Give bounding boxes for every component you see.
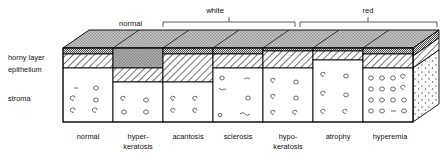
- column-sclerosis: [213, 48, 263, 122]
- layer-stroma-atrophy: [313, 60, 363, 122]
- layer-epithelium-normal: [63, 54, 113, 68]
- layer-horny-hyperemia: [363, 48, 413, 54]
- column-hyperemia: [363, 48, 413, 122]
- layer-horny-normal: [63, 48, 113, 54]
- layer-horny-acantosis: [163, 48, 213, 54]
- column-label-hyperkeratosis-2: keratosis: [123, 142, 153, 151]
- column-label-acantosis: acantosis: [172, 132, 204, 141]
- column-hypokeratosis: [263, 48, 313, 122]
- layer-epithelium-atrophy: [313, 51, 363, 60]
- layer-stroma-acantosis: [163, 82, 213, 122]
- column-label-sclerosis: sclerosis: [224, 132, 253, 141]
- tissue-layer-diagram: normal white red horny layer epithelium …: [0, 0, 441, 155]
- layer-epithelium-hyperemia: [363, 54, 413, 68]
- group-bracket-white: white: [163, 6, 295, 27]
- column-label-atrophy: atrophy: [326, 132, 351, 141]
- column-hyperkeratosis: [113, 48, 163, 122]
- group-label-normal: normal: [119, 19, 143, 28]
- layer-horny-hyperkeratosis: [113, 48, 163, 68]
- layer-stroma-hyperkeratosis: [113, 82, 163, 122]
- side-label-stroma: stroma: [8, 94, 31, 103]
- column-label-hypokeratosis-1: hypo-: [279, 132, 298, 141]
- group-label-white: white: [205, 6, 224, 15]
- layer-epithelium-acantosis: [163, 54, 213, 82]
- column-acantosis: [163, 48, 213, 122]
- group-bracket-red: red: [300, 6, 437, 27]
- side-label-horny-layer: horny layer: [8, 53, 45, 62]
- column-atrophy: [313, 48, 363, 122]
- layer-epithelium-hyperkeratosis: [113, 68, 163, 82]
- layer-epithelium-hypokeratosis: [263, 51, 313, 68]
- layer-epithelium-sclerosis: [213, 54, 263, 68]
- column-normal: [63, 48, 113, 122]
- layer-horny-sclerosis: [213, 48, 263, 54]
- group-bracket-normal: normal: [119, 19, 143, 28]
- group-label-red: red: [363, 6, 374, 15]
- column-label-normal: normal: [77, 132, 100, 141]
- layer-stroma-hypokeratosis: [263, 68, 313, 122]
- column-label-hypokeratosis-2: keratosis: [273, 142, 303, 151]
- column-label-hyperemia: hyperemia: [373, 132, 408, 141]
- block-top-face: [63, 30, 439, 48]
- side-label-epithelium: epithelium: [8, 65, 42, 74]
- diagram-svg: normal white red horny layer epithelium …: [0, 0, 441, 155]
- column-label-hyperkeratosis-1: hyper-: [128, 132, 149, 141]
- layer-stroma-normal: [63, 68, 113, 122]
